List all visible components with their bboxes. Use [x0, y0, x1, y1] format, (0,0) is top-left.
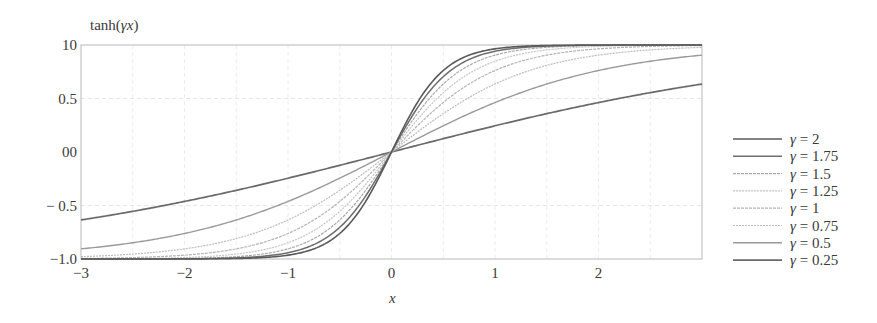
- curve-gamma-2: [81, 45, 702, 259]
- x-tick-label: 1: [491, 265, 499, 281]
- y-axis-ticks: 100.500− 0.5−1.0: [46, 37, 77, 267]
- x-tick-label: 2: [595, 265, 603, 281]
- x-tick-label: 0: [388, 265, 396, 281]
- legend-item: γ = 1.5: [733, 166, 831, 182]
- y-axis-label: tanh(γx): [90, 17, 138, 34]
- x-axis-ticks: −3−2−1012: [73, 265, 602, 281]
- x-axis-label: x: [388, 290, 396, 306]
- legend-item: γ = 1.75: [733, 148, 838, 164]
- legend-label: γ = 1: [790, 200, 819, 216]
- legend-label: γ = 0.75: [790, 218, 838, 234]
- curve-group: [81, 45, 702, 259]
- legend-item: γ = 2: [733, 131, 819, 147]
- legend-item: γ = 0.25: [733, 252, 838, 268]
- y-tick-label: 00: [62, 144, 77, 160]
- x-tick-label: −3: [73, 265, 89, 281]
- legend: γ = 2γ = 1.75γ = 1.5γ = 1.25γ = 1γ = 0.7…: [733, 131, 838, 268]
- legend-label: γ = 0.25: [790, 252, 838, 268]
- legend-label: γ = 1.75: [790, 148, 838, 164]
- x-tick-label: −2: [177, 265, 193, 281]
- legend-label: γ = 1.25: [790, 183, 838, 199]
- y-tick-label: − 0.5: [46, 198, 77, 214]
- legend-item: γ = 1: [733, 200, 819, 216]
- legend-item: γ = 0.5: [733, 235, 831, 251]
- legend-item: γ = 0.75: [733, 218, 838, 234]
- x-tick-label: −1: [280, 265, 296, 281]
- y-tick-label: −1.0: [50, 251, 77, 267]
- tanh-chart: −3−2−1012 100.500− 0.5−1.0 tanh(γx) x γ …: [0, 0, 877, 323]
- y-tick-label: 10: [62, 37, 77, 53]
- legend-label: γ = 1.5: [790, 166, 831, 182]
- legend-item: γ = 1.25: [733, 183, 838, 199]
- y-tick-label: 0.5: [58, 91, 77, 107]
- legend-label: γ = 0.5: [790, 235, 831, 251]
- legend-label: γ = 2: [790, 131, 819, 147]
